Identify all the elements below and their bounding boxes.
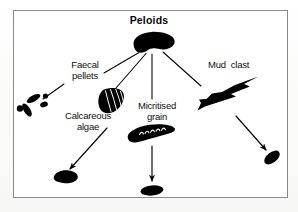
label-calcareous-algae: Calcareous algae (52, 111, 124, 132)
arrow-mudclast-to-peloid (236, 116, 266, 150)
figure-root: Peloids Faecal pellets Calcareous algae … (0, 0, 298, 212)
line-to-mudclast (163, 52, 201, 86)
peloid-center-shape (133, 32, 174, 53)
faecal-pellet-cluster-shape (17, 92, 49, 118)
line-to-algae (116, 54, 146, 89)
line-faecal-label (43, 84, 64, 99)
figure-title: Peloids (0, 14, 298, 26)
peloid-product-center (140, 184, 164, 196)
micritised-grain-shape (128, 124, 175, 142)
mud-clast-shape (198, 77, 259, 111)
arrow-algae-to-peloid (70, 128, 107, 169)
label-faecal-pellets: Faecal pellets (57, 60, 113, 81)
label-mud-clast: Mud clast (208, 60, 270, 71)
label-micritised-grain: Micritised grain (126, 101, 188, 122)
peloid-product-right (262, 148, 283, 167)
peloid-product-left (54, 170, 78, 183)
